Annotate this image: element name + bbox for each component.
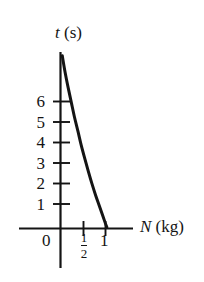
x-axis-unit: (kg)	[156, 217, 184, 236]
fraction-denominator: 2	[81, 247, 88, 260]
y-tick-label-5: 5	[29, 114, 45, 131]
origin-label: 0	[42, 232, 51, 249]
y-tick-label-1: 1	[29, 196, 45, 213]
y-tick-label-4: 4	[29, 134, 45, 151]
x-tick-label-one: 1	[100, 232, 109, 249]
fraction-numerator: 1	[81, 231, 88, 244]
x-tick-label-half: 1 2	[77, 231, 91, 261]
data-curve	[62, 56, 107, 228]
fraction-one-half: 1 2	[81, 231, 88, 261]
x-axis-variable: N	[140, 217, 151, 236]
y-axis-unit: (s)	[64, 23, 82, 42]
graph-figure: t (s) N (kg) 6 5 4 3 2 1 0 1 2 1	[0, 0, 204, 282]
y-axis-label: t (s)	[55, 24, 82, 41]
y-tick-label-2: 2	[29, 175, 45, 192]
y-tick-label-3: 3	[29, 155, 45, 172]
y-tick-label-6: 6	[29, 93, 45, 110]
x-axis-label: N (kg)	[140, 218, 184, 235]
